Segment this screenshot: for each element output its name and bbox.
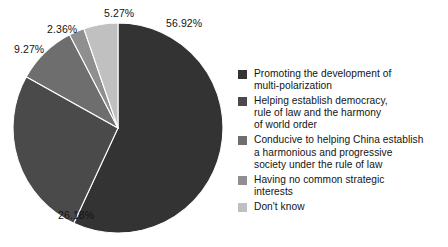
legend-label-1: Helping establish democracy, rule of law…: [254, 95, 388, 131]
pie-chart-figure: 56.92% 26.18% 9.27% 2.36% 5.27% Promotin…: [0, 0, 448, 247]
legend-item-3[interactable]: Having no common strategic interests: [238, 174, 444, 198]
legend-item-2[interactable]: Conducive to helping China establish a h…: [238, 134, 444, 170]
legend-label-3-line1: Having no common strategic: [254, 174, 384, 185]
slice-value-label-2: 9.27%: [14, 44, 44, 55]
legend-item-0[interactable]: Promoting the development of multi-polar…: [238, 68, 444, 92]
legend-label-3-line2: interests: [254, 186, 293, 197]
legend-label-0-line2: multi-polarization: [254, 80, 332, 91]
pie-svg: [0, 0, 240, 247]
pie-slice-group: [13, 23, 223, 233]
legend-label-0: Promoting the development of multi-polar…: [254, 68, 391, 92]
pie-plot-area: 56.92% 26.18% 9.27% 2.36% 5.27%: [0, 0, 240, 247]
legend-label-2-line2: a harmonious and progressive: [254, 147, 392, 158]
legend-label-3: Having no common strategic interests: [254, 174, 384, 198]
legend-item-4[interactable]: Don't know: [238, 201, 444, 213]
slice-value-label-1: 26.18%: [58, 210, 94, 221]
legend-swatch-icon-3: [238, 176, 247, 185]
legend-label-2: Conducive to helping China establish a h…: [254, 134, 423, 170]
legend-label-2-line3: society under the rule of law: [254, 159, 382, 170]
legend-swatch-icon-0: [238, 70, 247, 79]
legend-label-1-line3: of world order: [254, 119, 317, 130]
legend-label-1-line2: rule of law and the harmony: [254, 107, 381, 118]
legend-swatch-icon-2: [238, 136, 247, 145]
legend-swatch-icon-4: [238, 203, 247, 212]
slice-value-label-4: 5.27%: [104, 8, 134, 19]
slice-value-label-0: 56.92%: [166, 18, 202, 29]
chart-legend: Promoting the development of multi-polar…: [238, 68, 444, 216]
legend-swatch-icon-1: [238, 97, 247, 106]
legend-item-1[interactable]: Helping establish democracy, rule of law…: [238, 95, 444, 131]
legend-label-4-line1: Don't know: [254, 201, 305, 212]
legend-label-4: Don't know: [254, 201, 305, 213]
slice-value-label-3: 2.36%: [47, 24, 77, 35]
legend-label-2-line1: Conducive to helping China establish: [254, 134, 423, 145]
legend-label-0-line1: Promoting the development of: [254, 68, 391, 79]
legend-label-1-line1: Helping establish democracy,: [254, 95, 388, 106]
